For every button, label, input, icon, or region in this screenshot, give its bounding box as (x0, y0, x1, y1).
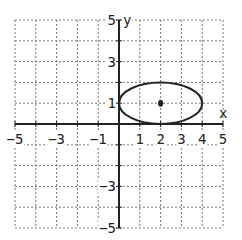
ellipse-graph: −5−3−112345531−3−5 x y (0, 0, 242, 240)
x-tick-label: 2 (156, 131, 164, 147)
x-tick-label: −5 (7, 131, 24, 147)
y-tick-label: 1 (108, 95, 116, 111)
y-tick-label: 5 (108, 12, 116, 28)
center-point (158, 100, 163, 107)
x-tick-label: −3 (48, 131, 65, 147)
x-tick-label: −1 (90, 131, 107, 147)
y-tick-label: −3 (99, 178, 116, 194)
axes (15, 20, 223, 228)
x-tick-label: 5 (219, 131, 227, 147)
x-tick-label: 1 (136, 131, 144, 147)
x-axis-label: x (219, 105, 227, 121)
y-axis-label: y (123, 12, 131, 28)
x-tick-label: 4 (198, 131, 206, 147)
y-tick-label: −5 (99, 220, 116, 236)
y-tick-label: 3 (108, 54, 116, 70)
x-tick-label: 3 (177, 131, 185, 147)
